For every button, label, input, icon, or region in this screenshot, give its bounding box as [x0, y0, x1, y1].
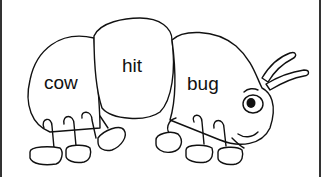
caterpillar-illustration: cow hit bug	[0, 0, 323, 177]
shoe-icon	[66, 145, 91, 162]
shoe-icon	[156, 132, 181, 152]
segment-body-front	[170, 32, 273, 144]
shoe-icon	[98, 128, 125, 151]
shoe-icon	[186, 145, 213, 162]
segment-label-front: bug	[187, 73, 219, 94]
illustration-frame: cow hit bug	[0, 0, 323, 177]
segment-label-middle: hit	[122, 55, 143, 76]
shoe-icon	[218, 147, 243, 164]
shoe-icon	[30, 147, 62, 165]
leg-icon	[100, 116, 108, 128]
segment-label-rear: cow	[44, 72, 78, 93]
